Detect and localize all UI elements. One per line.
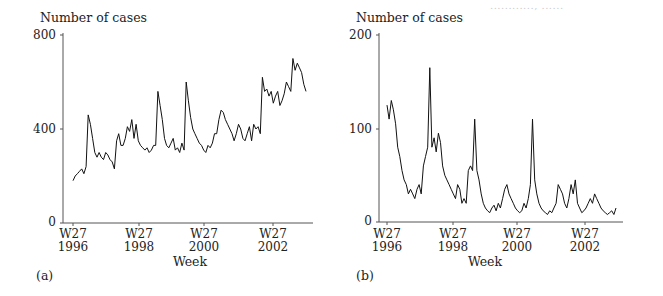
data-series-line (73, 59, 306, 181)
chart-panel-b: Number of cases 200 100 0 W271996 W27199… (330, 0, 663, 296)
chart-panel-a: Number of cases 800 400 0 W271996 W27199… (0, 0, 330, 296)
line-plot-b (330, 0, 663, 296)
line-plot-a (0, 0, 330, 296)
data-series-line (387, 68, 616, 215)
